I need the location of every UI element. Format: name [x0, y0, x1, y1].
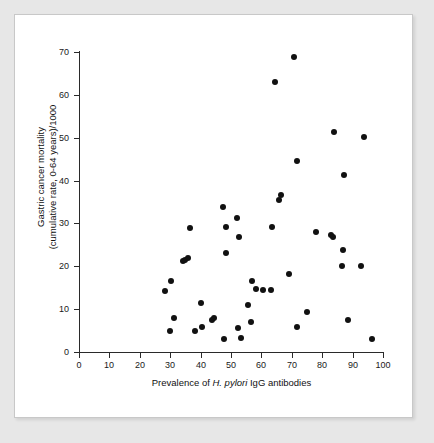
data-point — [278, 192, 284, 198]
x-tick-label: 30 — [157, 360, 183, 370]
data-point — [192, 328, 198, 334]
data-point — [339, 263, 345, 269]
x-tick — [383, 353, 384, 358]
data-point — [294, 158, 300, 164]
data-point — [221, 336, 227, 342]
x-tick — [170, 353, 171, 358]
x-tick — [231, 353, 232, 358]
data-point — [223, 250, 229, 256]
x-tick-label: 40 — [188, 360, 214, 370]
figure-panel: 0102030405060708090100 010203040506070 P… — [14, 14, 413, 418]
data-point — [291, 54, 297, 60]
x-tick-label: 10 — [96, 360, 122, 370]
y-tick-label: 70 — [47, 47, 69, 57]
page-background: 0102030405060708090100 010203040506070 P… — [0, 0, 434, 443]
data-point — [286, 271, 292, 277]
data-point — [330, 234, 336, 240]
data-point — [345, 317, 351, 323]
data-point — [223, 224, 229, 230]
data-point — [199, 324, 205, 330]
x-axis-title-species: H. pylori — [212, 377, 247, 388]
y-axis-title: Gastric cancer mortality (cumulative rat… — [35, 62, 59, 292]
y-tick-label: 10 — [47, 304, 69, 314]
data-point — [260, 287, 266, 293]
x-tick — [292, 353, 293, 358]
x-tick — [322, 353, 323, 358]
data-point — [245, 302, 251, 308]
x-tick-label: 100 — [370, 360, 396, 370]
scatter-plot-figure: 0102030405060708090100 010203040506070 P… — [15, 15, 414, 419]
x-tick — [201, 353, 202, 358]
x-tick-label: 20 — [127, 360, 153, 370]
data-point — [234, 215, 240, 221]
data-point — [198, 300, 204, 306]
x-tick-label: 0 — [66, 360, 92, 370]
data-point — [171, 315, 177, 321]
data-point — [313, 229, 319, 235]
y-tick-label: 0 — [47, 347, 69, 357]
data-point — [294, 324, 300, 330]
data-point — [167, 328, 173, 334]
data-point — [236, 234, 242, 240]
x-tick — [109, 353, 110, 358]
x-tick — [140, 353, 141, 358]
data-point — [340, 247, 346, 253]
x-tick-label: 80 — [309, 360, 335, 370]
data-point — [358, 263, 364, 269]
x-tick — [79, 353, 80, 358]
x-tick-label: 50 — [218, 360, 244, 370]
data-point — [211, 315, 217, 321]
x-axis-title: Prevalence of H. pylori IgG antibodies — [79, 377, 384, 388]
data-point — [269, 224, 275, 230]
data-point — [272, 79, 278, 85]
data-point — [238, 335, 244, 341]
data-point — [220, 204, 226, 210]
data-point — [248, 319, 254, 325]
x-tick-label: 60 — [248, 360, 274, 370]
x-tick-label: 90 — [340, 360, 366, 370]
data-point — [361, 134, 367, 140]
data-point — [341, 172, 347, 178]
x-tick — [353, 353, 354, 358]
y-axis-title-line1: Gastric cancer mortality — [35, 62, 47, 292]
data-point — [331, 129, 337, 135]
data-point — [253, 286, 259, 292]
y-axis-title-line2: (cumulative rate, 0-64 years)/1000 — [47, 62, 59, 292]
data-point — [187, 225, 193, 231]
x-tick — [261, 353, 262, 358]
data-point — [168, 278, 174, 284]
data-point — [304, 309, 310, 315]
x-axis-title-pre: Prevalence of — [152, 377, 213, 388]
data-point — [235, 325, 241, 331]
data-point — [249, 278, 255, 284]
data-point — [268, 287, 274, 293]
data-point — [369, 336, 375, 342]
data-point — [185, 255, 191, 261]
y-tick — [74, 352, 79, 353]
data-point — [162, 288, 168, 294]
x-tick-label: 70 — [279, 360, 305, 370]
plot-data-area — [79, 52, 383, 352]
x-axis-title-post: IgG antibodies — [247, 377, 311, 388]
